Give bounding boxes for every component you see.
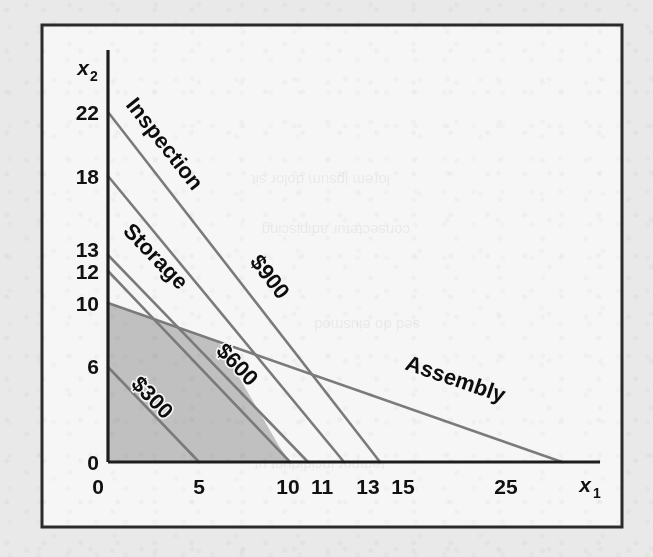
x-tick-25: 25: [494, 475, 518, 498]
y-axis-label: x: [76, 56, 90, 79]
svg-text:sed do eiusmod: sed do eiusmod: [314, 317, 420, 334]
svg-text:consectetur adipiscing: consectetur adipiscing: [262, 222, 410, 239]
x-axis-label: x: [578, 473, 592, 496]
x-axis-label-subscript: 1: [593, 485, 601, 501]
linear-programming-figure: lorem ipsum dolor sit consectetur adipis…: [0, 0, 653, 557]
x-tick-13: 13: [356, 475, 379, 498]
y-tick-22: 22: [76, 101, 99, 124]
x-tick-11: 11: [311, 475, 334, 498]
x-tick-10: 10: [276, 475, 299, 498]
y-tick-13: 13: [76, 238, 99, 261]
svg-text:lorem ipsum dolor sit: lorem ipsum dolor sit: [251, 172, 390, 189]
y-tick-18: 18: [76, 165, 100, 188]
graph-canvas: lorem ipsum dolor sit consectetur adipis…: [0, 0, 653, 557]
x-tick-0: 0: [92, 475, 104, 498]
y-tick-12: 12: [76, 260, 99, 283]
y-tick-6: 6: [87, 355, 99, 378]
y-axis-label-subscript: 2: [90, 68, 98, 84]
y-tick-0: 0: [87, 451, 99, 474]
y-tick-10: 10: [76, 292, 99, 315]
x-tick-15: 15: [391, 475, 415, 498]
x-tick-5: 5: [193, 475, 205, 498]
